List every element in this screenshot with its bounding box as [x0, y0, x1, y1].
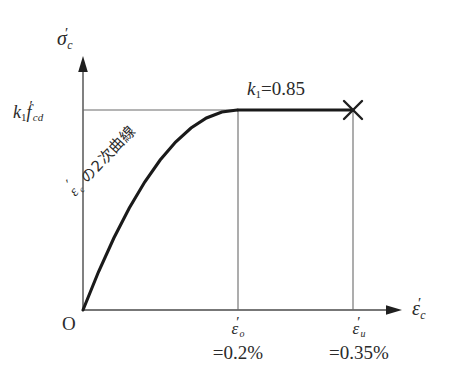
- x-tick-label-epsilon-u: ε′u=0.35%: [311, 315, 407, 362]
- x-tick-value-epsilon-o: =0.2%: [196, 343, 280, 362]
- x-axis-label: ε′c: [412, 296, 426, 321]
- y-axis-subscript: c: [67, 38, 72, 52]
- origin-label: O: [62, 314, 76, 333]
- x-tick-value-epsilon-u: =0.35%: [311, 343, 407, 362]
- x-axis: [83, 305, 402, 315]
- x-axis-arrowhead: [386, 305, 402, 315]
- y-tick-label-k1fcd: k1f′cd: [13, 99, 43, 123]
- k1-value-annotation: k1=0.85: [247, 79, 305, 100]
- stress-strain-figure: σ′c ε′c k1f′cd k1=0.85 O ε′o=0.2% ε′u=0.…: [0, 0, 455, 386]
- x-axis-subscript: c: [420, 308, 425, 322]
- y-axis-arrowhead: [78, 56, 88, 72]
- y-axis-label: σ′c: [57, 26, 72, 51]
- x-tick-label-epsilon-o: ε′o=0.2%: [196, 315, 280, 362]
